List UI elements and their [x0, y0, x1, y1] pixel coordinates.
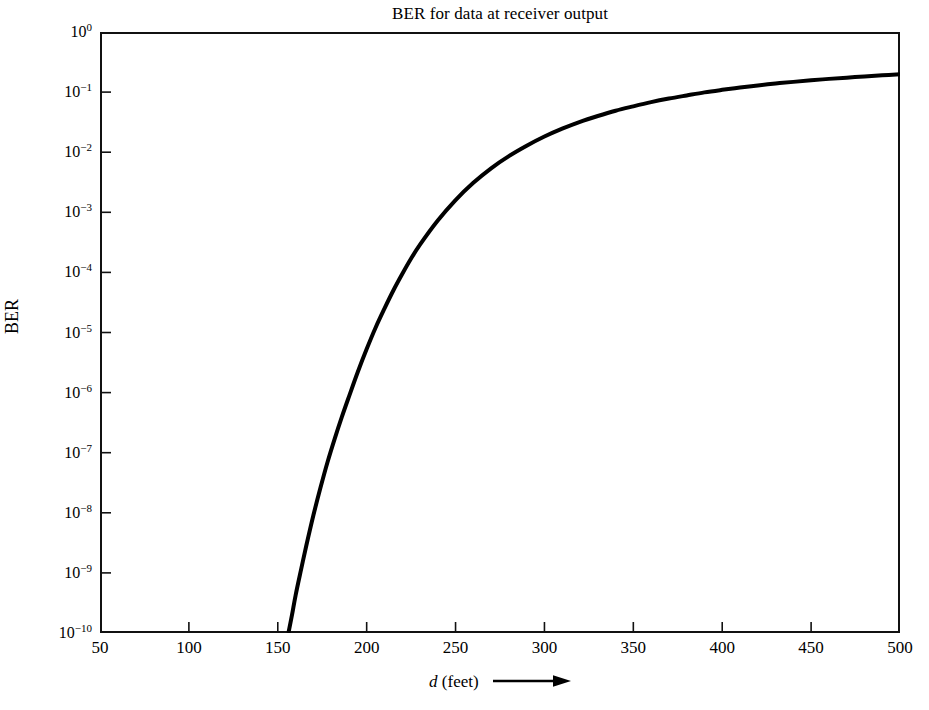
x-tick-label: 450	[798, 638, 824, 658]
y-tick-label: 10−1	[64, 83, 92, 101]
y-tick-label: 10−2	[64, 143, 92, 161]
x-axis-tick-labels: 50100150200250300350400450500	[0, 638, 929, 668]
plot-area	[100, 32, 900, 633]
y-axis-tick-labels: 10010−110−210−310−410−510−610−710−810−91…	[0, 0, 100, 710]
ber-curve-svg	[100, 32, 900, 633]
x-tick-label: 250	[443, 638, 469, 658]
x-tick-label: 500	[887, 638, 913, 658]
y-tick-label: 10−7	[64, 444, 92, 462]
x-axis-variable: d	[429, 672, 438, 691]
x-tick-label: 150	[265, 638, 291, 658]
x-tick-label: 50	[92, 638, 109, 658]
y-tick-label: 10−5	[64, 324, 92, 342]
y-tick-label: 10−3	[64, 203, 92, 221]
x-tick-label: 400	[709, 638, 735, 658]
x-axis-arrow-icon	[493, 673, 571, 693]
x-tick-label: 300	[532, 638, 558, 658]
y-tick-label: 10−8	[64, 504, 92, 522]
y-axis-title: BER	[2, 282, 23, 352]
x-tick-label: 350	[621, 638, 647, 658]
ber-curve	[288, 74, 900, 633]
chart-title: BER for data at receiver output	[100, 3, 900, 25]
x-tick-label: 200	[354, 638, 380, 658]
y-tick-label: 10−9	[64, 564, 92, 582]
ber-chart-figure: BER for data at receiver output 10010−11…	[0, 0, 929, 710]
x-tick-label: 100	[176, 638, 202, 658]
y-tick-label: 10−4	[64, 263, 92, 281]
y-tick-label: 100	[71, 23, 93, 41]
y-tick-label: 10−6	[64, 384, 92, 402]
x-axis-title: d (feet)	[100, 672, 900, 693]
x-axis-units: (feet)	[442, 672, 479, 691]
